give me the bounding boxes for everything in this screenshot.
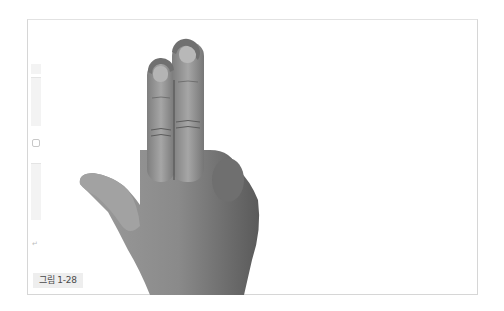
device-back-icon: ↵ [32, 241, 38, 248]
thumb-shape [80, 173, 140, 231]
hand-illustration [40, 0, 280, 311]
device-square-icon [32, 139, 40, 147]
figure-caption: 그림 1-28 [33, 273, 83, 288]
folded-finger [212, 158, 244, 202]
index-fingernail [153, 66, 168, 82]
